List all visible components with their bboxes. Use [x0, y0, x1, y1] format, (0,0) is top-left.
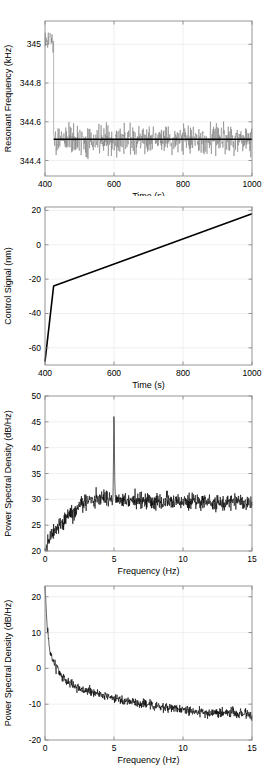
panel4-gridlines [45, 586, 252, 740]
panel3-ytick-20: 20 [32, 546, 42, 556]
panel1-xtick-1000: 1000 [243, 179, 262, 189]
panel2-xtick-400: 400 [38, 368, 52, 378]
panel4-xtick-5: 5 [112, 743, 117, 753]
panel3-ytick-50: 50 [32, 391, 42, 401]
panel3-xtick-0: 0 [43, 554, 48, 564]
panel3-ytick-40: 40 [32, 443, 42, 453]
panel3-ticks: 05101520253035404550 [32, 391, 257, 564]
panel3-xlabel: Frequency (Hz) [117, 566, 179, 576]
panel-psd-open-loop: 051015-20-1001020Frequency (Hz)Power Spe… [0, 582, 279, 782]
psd-open-loop [45, 586, 252, 721]
panel4-ytick-0: 0 [36, 663, 41, 673]
panel3-xtick-15: 15 [247, 554, 257, 564]
panel3-ytick-35: 35 [32, 469, 42, 479]
panel2-ytick--20: -20 [29, 274, 42, 284]
four-panel-figure: 4006008001000344.4344.6344.8345Time (s)R… [0, 0, 279, 782]
panel-control-signal: 4006008001000-60-40-20020Time (s)Control… [0, 196, 279, 390]
panel3-ylabel: Power Spectral Density (dB/Hz) [3, 410, 13, 537]
panel2-ytick--60: -60 [29, 343, 42, 353]
panel1-ytick-344.6: 344.6 [20, 117, 42, 127]
panel3-gridlines [45, 396, 252, 551]
panel3-data [45, 417, 252, 551]
panel4-xtick-15: 15 [247, 743, 257, 753]
psd-closed-loop [45, 417, 252, 551]
panel1-xtick-800: 800 [176, 179, 190, 189]
panel-resonant-frequency: 4006008001000344.4344.6344.8345Time (s)R… [0, 0, 279, 196]
panel2-xtick-800: 800 [176, 368, 190, 378]
resonant-frequency-noise [45, 33, 252, 160]
panel1-ytick-345: 345 [27, 39, 41, 49]
control-signal [45, 214, 252, 362]
panel2-ylabel: Control Signal (nm) [3, 247, 13, 325]
panel1-xtick-600: 600 [107, 179, 121, 189]
panel3-ytick-25: 25 [32, 520, 42, 530]
panel2-xlabel: Time (s) [132, 380, 165, 390]
panel-psd-closed-loop: 05101520253035404550Frequency (Hz)Power … [0, 390, 279, 582]
panel3-xtick-10: 10 [178, 554, 188, 564]
panel4-ticks: 051015-20-1001020 [29, 586, 257, 753]
panel2-gridlines [45, 207, 252, 365]
panel3-xtick-5: 5 [112, 554, 117, 564]
panel4-ytick-20: 20 [32, 592, 42, 602]
panel2-xtick-1000: 1000 [243, 368, 262, 378]
panel4-ytick--10: -10 [29, 699, 42, 709]
panel1-ytick-344.4: 344.4 [20, 156, 42, 166]
panel1-ticks: 4006008001000344.4344.6344.8345 [20, 21, 262, 189]
panel2-xtick-600: 600 [107, 368, 121, 378]
panel2-ytick--40: -40 [29, 308, 42, 318]
panel4-ytick-10: 10 [32, 628, 42, 638]
panel1-gridlines [45, 21, 252, 176]
panel1-canvas: 4006008001000344.4344.6344.8345Time (s)R… [0, 0, 279, 196]
panel3-ytick-45: 45 [32, 417, 42, 427]
panel4-axis-frame [45, 586, 252, 740]
panel4-ytick--20: -20 [29, 735, 42, 745]
panel2-ticks: 4006008001000-60-40-20020 [29, 205, 262, 378]
panel4-xtick-10: 10 [178, 743, 188, 753]
panel2-data [45, 214, 252, 362]
panel1-xtick-400: 400 [38, 179, 52, 189]
panel2-ytick-20: 20 [32, 205, 42, 215]
panel2-ytick-0: 0 [36, 240, 41, 250]
panel4-data [45, 586, 252, 721]
panel2-axis-frame [45, 207, 252, 365]
panel1-ylabel: Resonant Frequency (kHz) [3, 45, 13, 153]
panel4-canvas: 051015-20-1001020Frequency (Hz)Power Spe… [0, 582, 279, 782]
panel1-ytick-344.8: 344.8 [20, 78, 42, 88]
panel4-xtick-0: 0 [43, 743, 48, 753]
panel4-ylabel: Power Spectral Density (dB/Hz) [3, 600, 13, 727]
panel4-xlabel: Frequency (Hz) [117, 755, 179, 765]
panel3-ytick-30: 30 [32, 494, 42, 504]
panel2-canvas: 4006008001000-60-40-20020Time (s)Control… [0, 196, 279, 390]
panel3-canvas: 05101520253035404550Frequency (Hz)Power … [0, 390, 279, 582]
panel1-data [45, 33, 252, 160]
